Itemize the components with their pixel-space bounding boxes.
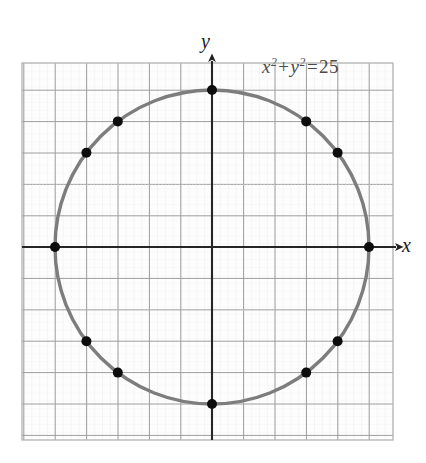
data-point <box>364 242 374 252</box>
circle-graph-figure: x2+y2=25 x y <box>0 0 426 463</box>
data-point <box>113 116 123 126</box>
equation-equals-sign: = <box>306 56 319 77</box>
equation-right-side: 25 <box>319 56 339 77</box>
data-point <box>333 336 343 346</box>
graph-canvas <box>0 0 426 463</box>
data-point <box>301 368 311 378</box>
y-axis-label: y <box>201 30 210 53</box>
equation-annotation: x2+y2=25 <box>262 56 339 78</box>
data-point <box>301 116 311 126</box>
data-point <box>113 368 123 378</box>
data-point <box>50 242 60 252</box>
data-point <box>81 148 91 158</box>
equation-exponent-y: 2 <box>299 56 305 69</box>
data-point <box>333 148 343 158</box>
equation-operator: + <box>277 56 290 77</box>
x-axis-label: x <box>402 234 411 257</box>
plot-area <box>22 63 393 440</box>
equation-var-x: x <box>262 56 271 77</box>
data-point <box>207 85 217 95</box>
data-point <box>81 336 91 346</box>
data-point <box>207 399 217 409</box>
